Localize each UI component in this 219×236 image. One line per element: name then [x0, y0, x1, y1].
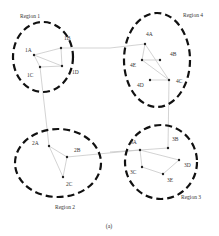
intra-region-edges	[34, 44, 179, 177]
edge-1C-1D	[40, 66, 62, 67]
edge-3A-3B	[140, 148, 168, 150]
region-label-r4: Region 4	[183, 12, 203, 18]
node-3B	[167, 147, 169, 149]
edge-3E-3D	[163, 160, 179, 174]
link-1C-2A	[40, 67, 49, 146]
node-1C	[39, 66, 41, 68]
node-2B	[66, 156, 68, 158]
node-2A	[48, 145, 50, 147]
region-boundaries	[13, 13, 197, 199]
node-label-3D: 3D	[184, 162, 191, 168]
network-diagram: 1A1B1C1D4A4B4E4D4C2A2B2C3A3B3C3D3E Regio…	[0, 0, 219, 236]
node-label-1B: 1B	[64, 35, 71, 41]
edge-1B-1D	[61, 48, 62, 66]
node-label-4E: 4E	[130, 62, 137, 68]
link-1B-4A	[61, 44, 145, 48]
node-label-4C: 4C	[176, 78, 183, 84]
region-labels: Region 1Region 4Region 2Region 3	[20, 12, 203, 210]
region-label-r2: Region 2	[55, 204, 75, 210]
node-labels: 1A1B1C1D4A4B4E4D4C2A2B2C3A3B3C3D3E	[25, 31, 191, 187]
node-label-3C: 3C	[130, 169, 137, 175]
node-label-4A: 4A	[146, 31, 153, 37]
node-1B	[60, 47, 62, 49]
edge-4A-4C	[145, 44, 169, 80]
edge-3A-3D	[140, 150, 179, 160]
node-label-2B: 2B	[74, 147, 81, 153]
edge-1A-1B	[34, 48, 61, 55]
node-label-3A: 3A	[130, 139, 137, 145]
link-4C-3B	[168, 80, 169, 148]
edge-1A-1D	[34, 55, 62, 66]
node-label-1A: 1A	[25, 47, 32, 53]
node-label-4D: 4D	[137, 82, 144, 88]
node-label-1C: 1C	[27, 72, 34, 78]
edge-4E-4C	[142, 60, 169, 80]
node-4C	[168, 79, 170, 81]
node-label-2A: 2A	[32, 140, 39, 146]
node-1A	[33, 54, 35, 56]
node-3E	[162, 173, 164, 175]
node-1D	[61, 65, 63, 67]
node-4D	[149, 79, 151, 81]
region-label-r3: Region 3	[181, 194, 201, 200]
edge-3C-3E	[142, 167, 163, 174]
node-label-3B: 3B	[172, 136, 179, 142]
edge-4A-4E	[142, 44, 145, 60]
edge-3A-3C	[140, 150, 142, 167]
node-4A	[144, 43, 146, 45]
node-label-2C: 2C	[66, 181, 73, 187]
node-3A	[139, 149, 141, 151]
edge-2B-2C	[63, 157, 67, 177]
node-3C	[141, 166, 143, 168]
inter-region-links	[40, 44, 169, 157]
figure-caption: (a)	[106, 223, 113, 230]
node-4B	[159, 59, 161, 61]
node-3D	[178, 159, 180, 161]
node-label-1D: 1D	[72, 69, 79, 75]
node-4E	[141, 59, 143, 61]
node-label-3E: 3E	[167, 177, 174, 183]
region-r1-boundary	[13, 22, 73, 92]
region-r2-boundary	[15, 129, 101, 197]
region-label-r1: Region 1	[20, 13, 40, 19]
node-label-4B: 4B	[170, 51, 177, 57]
node-2C	[62, 176, 64, 178]
